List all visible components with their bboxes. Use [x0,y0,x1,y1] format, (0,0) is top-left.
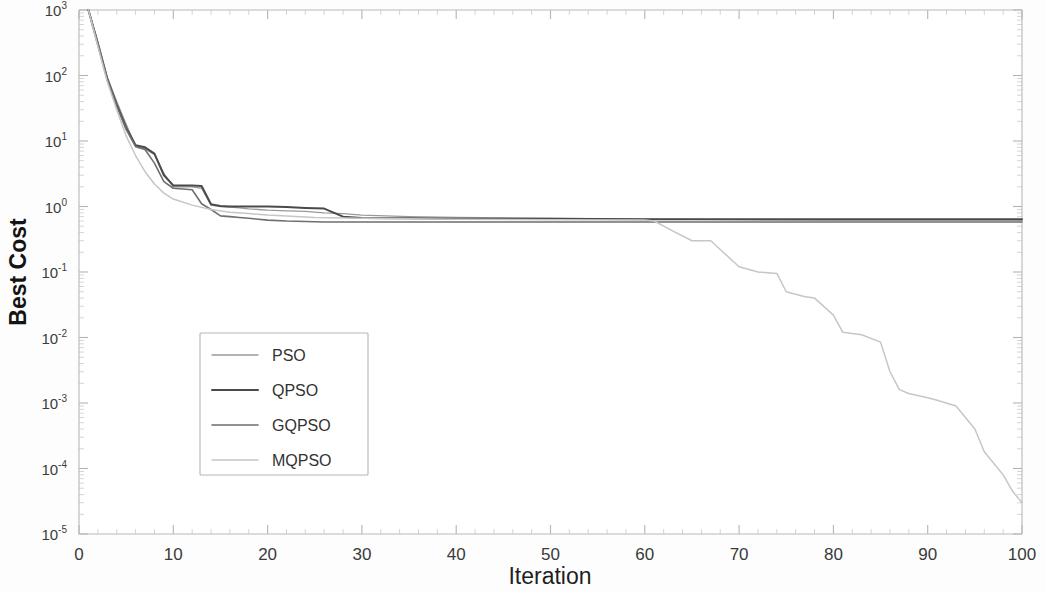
figure-container: 10-510-410-310-210-1100101102103 0102030… [0,0,1045,593]
x-tick-label: 10 [164,545,183,564]
x-tick-label: 80 [824,545,843,564]
x-tick-label: 20 [258,545,277,564]
x-tick-label: 30 [352,545,371,564]
legend-label-pso: PSO [272,347,306,364]
x-tick-label: 60 [635,545,654,564]
x-tick-label: 40 [447,545,466,564]
legend-label-qpso: QPSO [272,382,318,399]
legend-label-gqpso: GQPSO [272,417,331,434]
x-tick-label: 50 [541,545,560,564]
x-tick-label: 90 [918,545,937,564]
legend-label-mqpso: MQPSO [272,452,332,469]
x-tick-label: 70 [730,545,749,564]
x-tick-label: 100 [1008,545,1036,564]
convergence-chart: 10-510-410-310-210-1100101102103 0102030… [0,0,1045,593]
x-axis-title: Iteration [508,563,591,589]
chart-legend: PSOQPSOGQPSOMQPSO [200,333,368,475]
x-tick-label: 0 [74,545,83,564]
y-axis-title: Best Cost [5,218,31,326]
